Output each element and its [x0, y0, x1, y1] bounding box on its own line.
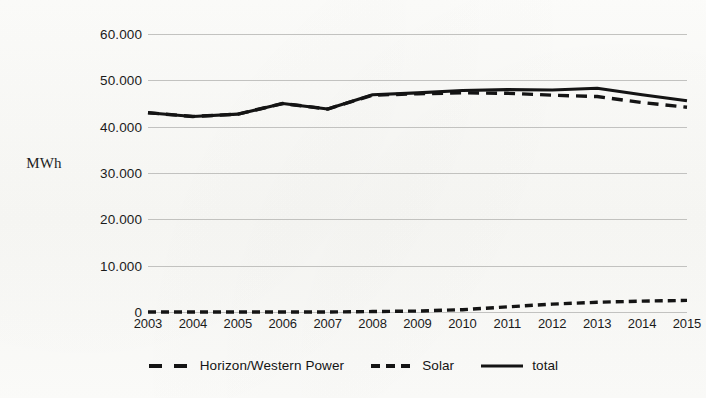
dashed-line-icon [148, 360, 192, 372]
x-axis-tick-label: 2015 [673, 316, 702, 331]
x-axis-tick-label: 2003 [134, 316, 163, 331]
x-axis-tick-label: 2004 [179, 316, 208, 331]
x-axis-tick-label: 2007 [313, 316, 342, 331]
legend-item-label: Horizon/Western Power [200, 358, 344, 373]
solid-line-icon [480, 360, 524, 372]
y-axis-tick-label: 50.000 [70, 73, 142, 88]
chart-svg [148, 34, 687, 312]
y-axis-tick-label: 40.000 [70, 119, 142, 134]
x-axis-tick-label: 2008 [358, 316, 387, 331]
series-line [148, 300, 687, 312]
x-axis-tick-label: 2014 [628, 316, 657, 331]
chart-legend: Horizon/Western PowerSolartotal [0, 358, 706, 373]
y-axis-tick-labels: 60.00050.00040.00030.00020.00010.0000 [66, 0, 142, 398]
y-axis-tick-label: 0 [70, 305, 142, 320]
y-axis-label: MWh [14, 155, 74, 172]
series-line [148, 93, 687, 117]
legend-item[interactable]: Solar [370, 358, 454, 373]
x-axis-tick-label: 2012 [538, 316, 567, 331]
x-axis-tick-label: 2010 [448, 316, 477, 331]
plot-area [148, 34, 687, 312]
legend-item[interactable]: total [480, 358, 558, 373]
legend-item-label: total [532, 358, 558, 373]
legend-item[interactable]: Horizon/Western Power [148, 358, 344, 373]
x-axis-tick-label: 2009 [403, 316, 432, 331]
y-axis-tick-label: 20.000 [70, 212, 142, 227]
y-axis-tick-label: 60.000 [70, 27, 142, 42]
x-axis-tick-label: 2005 [224, 316, 253, 331]
x-axis-tick-label: 2011 [494, 316, 522, 331]
dashed-line-icon [370, 360, 414, 372]
legend-item-label: Solar [422, 358, 454, 373]
x-axis-tick-label: 2013 [583, 316, 612, 331]
chart-container: MWh 60.00050.00040.00030.00020.00010.000… [0, 0, 706, 398]
x-axis-tick-label: 2006 [268, 316, 297, 331]
y-axis-tick-label: 10.000 [70, 258, 142, 273]
y-axis-tick-label: 30.000 [70, 166, 142, 181]
